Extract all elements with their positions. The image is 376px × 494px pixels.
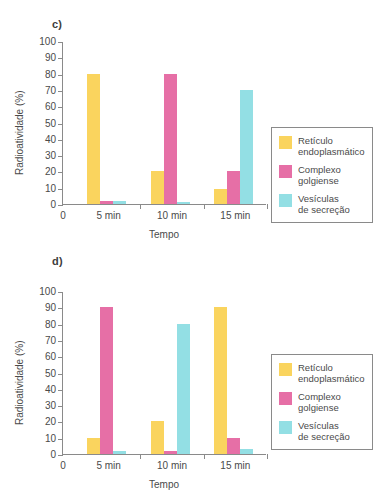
legend-color-swatch [279, 136, 292, 149]
y-tick-mark [58, 140, 63, 141]
x-tick-mark [267, 204, 268, 209]
x-tick-mark [140, 454, 141, 459]
legend-item-label: Vesículas de secreção [298, 420, 350, 442]
x-origin-label: 0 [60, 211, 66, 221]
bar [177, 324, 190, 454]
legend-d: Retículo endoplasmáticoComplexo golgiens… [271, 354, 373, 450]
y-tick-label: 60 [45, 102, 56, 112]
bar [164, 451, 177, 454]
y-tick-mark [58, 189, 63, 190]
y-tick-mark [58, 172, 63, 173]
x-tick-label: 15 min [220, 461, 250, 471]
legend-item-label: Retículo endoplasmático [298, 135, 365, 157]
bar [87, 438, 100, 454]
legend-color-swatch [279, 392, 292, 405]
bar [151, 421, 164, 454]
y-tick-label: 70 [45, 336, 56, 346]
y-tick-label: 40 [45, 135, 56, 145]
legend-color-swatch [279, 363, 292, 376]
y-tick-mark [58, 325, 63, 326]
legend-color-swatch [279, 165, 292, 178]
y-tick-label: 0 [50, 450, 56, 460]
x-tick-label: 10 min [157, 461, 187, 471]
y-tick-mark [58, 341, 63, 342]
legend-color-swatch [279, 421, 292, 434]
y-axis-title-c: Radioatividade (%) [14, 91, 25, 176]
bar [151, 171, 164, 204]
y-tick-label: 50 [45, 119, 56, 129]
y-tick-label: 60 [45, 352, 56, 362]
y-tick-mark [58, 124, 63, 125]
y-tick-label: 100 [39, 287, 56, 297]
bar [177, 202, 190, 204]
legend-item: Vesículas de secreção [279, 193, 366, 215]
legend-item: Complexo golgiense [279, 391, 366, 413]
y-tick-mark [58, 205, 63, 206]
legend-c: Retículo endoplasmáticoComplexo golgiens… [271, 127, 373, 223]
x-axis-title-c: Tempo [149, 229, 179, 240]
bar [113, 451, 126, 454]
x-tick-mark [204, 454, 205, 459]
y-tick-label: 0 [50, 200, 56, 210]
y-tick-label: 80 [45, 320, 56, 330]
legend-item-label: Retículo endoplasmático [298, 362, 365, 384]
x-tick-mark [140, 204, 141, 209]
y-tick-label: 20 [45, 417, 56, 427]
legend-item-label: Complexo golgiense [298, 391, 341, 413]
x-tick-label: 10 min [157, 211, 187, 221]
y-tick-label: 50 [45, 369, 56, 379]
y-tick-label: 10 [45, 434, 56, 444]
y-tick-mark [58, 357, 63, 358]
y-tick-mark [58, 390, 63, 391]
y-tick-mark [58, 406, 63, 407]
x-tick-label: 5 min [96, 211, 120, 221]
y-tick-label: 80 [45, 70, 56, 80]
y-tick-label: 90 [45, 303, 56, 313]
bar [113, 201, 126, 204]
legend-item: Complexo golgiense [279, 164, 366, 186]
y-tick-mark [58, 374, 63, 375]
y-tick-mark [58, 58, 63, 59]
legend-item: Retículo endoplasmático [279, 362, 366, 384]
y-tick-mark [58, 91, 63, 92]
legend-item: Vesículas de secreção [279, 420, 366, 442]
bar [227, 171, 240, 204]
x-tick-label: 15 min [220, 211, 250, 221]
y-tick-label: 70 [45, 86, 56, 96]
bar [100, 307, 113, 454]
y-tick-mark [58, 75, 63, 76]
bar [214, 189, 227, 204]
y-tick-mark [58, 455, 63, 456]
legend-item-label: Complexo golgiense [298, 164, 341, 186]
y-tick-label: 30 [45, 401, 56, 411]
legend-item: Retículo endoplasmático [279, 135, 366, 157]
x-tick-mark [267, 454, 268, 459]
y-axis-title-d: Radioatividade (%) [14, 341, 25, 426]
bar [214, 307, 227, 454]
bar [227, 438, 240, 454]
x-tick-mark [204, 204, 205, 209]
y-tick-label: 20 [45, 167, 56, 177]
chart-panel-d: d) Radioatividade (%) 100908070605040302… [0, 247, 376, 494]
plot-area-d: 10090807060504030201005 min10 min15 min0 [62, 292, 266, 455]
y-tick-mark [58, 308, 63, 309]
x-origin-label: 0 [60, 461, 66, 471]
x-tick-label: 5 min [96, 461, 120, 471]
y-tick-mark [58, 156, 63, 157]
bar [240, 449, 253, 454]
y-tick-label: 90 [45, 53, 56, 63]
y-tick-mark [58, 42, 63, 43]
chart-panel-c: c) Radioatividade (%) 100908070605040302… [0, 0, 376, 247]
bar [100, 201, 113, 204]
y-tick-label: 10 [45, 184, 56, 194]
y-tick-mark [58, 107, 63, 108]
y-tick-label: 40 [45, 385, 56, 395]
plot-area-c: 10090807060504030201005 min10 min15 min0 [62, 42, 266, 205]
legend-color-swatch [279, 194, 292, 207]
y-tick-label: 30 [45, 151, 56, 161]
y-tick-mark [58, 292, 63, 293]
bar [164, 74, 177, 204]
panel-letter-c: c) [52, 18, 62, 30]
y-tick-label: 100 [39, 37, 56, 47]
y-tick-mark [58, 439, 63, 440]
